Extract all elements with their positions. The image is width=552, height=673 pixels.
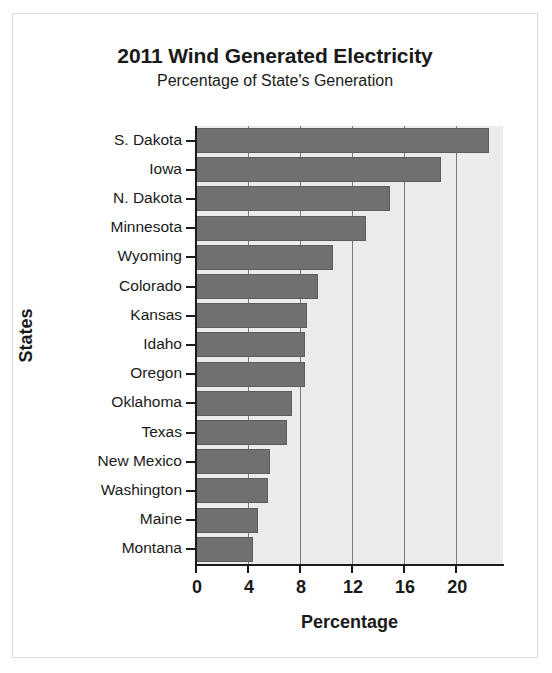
bar-row [196, 272, 503, 301]
y-axis-tick [186, 227, 196, 229]
bar[interactable] [196, 420, 287, 445]
bar[interactable] [196, 332, 305, 357]
y-axis-label: Washington [0, 481, 182, 499]
plot-area [196, 126, 503, 564]
y-axis-label: Wyoming [0, 247, 182, 265]
y-axis-label: Maine [0, 510, 182, 528]
x-axis-tick [455, 564, 457, 573]
x-axis-line [195, 564, 504, 566]
y-axis-label: Oregon [0, 364, 182, 382]
x-axis-label: 8 [281, 577, 321, 598]
y-axis-label: Texas [0, 423, 182, 441]
x-axis-label: 0 [177, 577, 217, 598]
y-axis-label: Colorado [0, 277, 182, 295]
bar-row [196, 506, 503, 535]
x-axis-tick [403, 564, 405, 573]
y-axis-tick [186, 344, 196, 346]
x-axis-tick [351, 564, 353, 573]
y-axis-tick [186, 490, 196, 492]
y-axis-tick [186, 256, 196, 258]
bar[interactable] [196, 508, 258, 533]
bar[interactable] [196, 449, 270, 474]
bar-row [196, 330, 503, 359]
bar[interactable] [196, 537, 253, 562]
bar[interactable] [196, 274, 318, 299]
y-axis-label: Minnesota [0, 218, 182, 236]
y-axis-tick [186, 198, 196, 200]
bar[interactable] [196, 157, 441, 182]
bar[interactable] [196, 216, 366, 241]
bar[interactable] [196, 245, 333, 270]
y-axis-tick [186, 169, 196, 171]
bar-row [196, 447, 503, 476]
y-axis-label: Oklahoma [0, 393, 182, 411]
chart-figure: 2011 Wind Generated Electricity Percenta… [0, 0, 552, 673]
bar[interactable] [196, 303, 307, 328]
y-axis-tick [186, 432, 196, 434]
bar[interactable] [196, 391, 292, 416]
bar-row [196, 184, 503, 213]
y-axis-label: S. Dakota [0, 131, 182, 149]
bar-row [196, 360, 503, 389]
bar-row [196, 214, 503, 243]
y-axis-tick [186, 461, 196, 463]
y-axis-label: N. Dakota [0, 189, 182, 207]
x-axis-label: 16 [385, 577, 425, 598]
y-axis-label: Iowa [0, 160, 182, 178]
bar-row [196, 155, 503, 184]
x-axis-tick [195, 564, 197, 573]
chart-title: 2011 Wind Generated Electricity [12, 43, 538, 68]
bar-row [196, 389, 503, 418]
y-axis-tick [186, 402, 196, 404]
x-axis-tick [247, 564, 249, 573]
x-axis-title: Percentage [196, 612, 503, 633]
bar-row [196, 476, 503, 505]
bar-row [196, 126, 503, 155]
x-axis-label: 4 [229, 577, 269, 598]
y-axis-label: Kansas [0, 306, 182, 324]
bar[interactable] [196, 128, 489, 153]
y-axis-label: Montana [0, 539, 182, 557]
bar-row [196, 301, 503, 330]
y-axis-tick [186, 519, 196, 521]
bar[interactable] [196, 362, 305, 387]
chart-subtitle: Percentage of State's Generation [12, 70, 538, 92]
bar[interactable] [196, 186, 390, 211]
x-axis-tick [299, 564, 301, 573]
y-axis-tick [186, 548, 196, 550]
bar-row [196, 243, 503, 272]
y-axis-tick [186, 373, 196, 375]
bar-row [196, 535, 503, 564]
y-axis-tick [186, 140, 196, 142]
y-axis-tick [186, 315, 196, 317]
title-block: 2011 Wind Generated Electricity Percenta… [12, 43, 538, 92]
bar-row [196, 418, 503, 447]
y-axis-label: New Mexico [0, 452, 182, 470]
y-axis-tick [186, 286, 196, 288]
x-axis-label: 12 [333, 577, 373, 598]
x-axis-label: 20 [437, 577, 477, 598]
bar[interactable] [196, 478, 268, 503]
y-axis-label: Idaho [0, 335, 182, 353]
